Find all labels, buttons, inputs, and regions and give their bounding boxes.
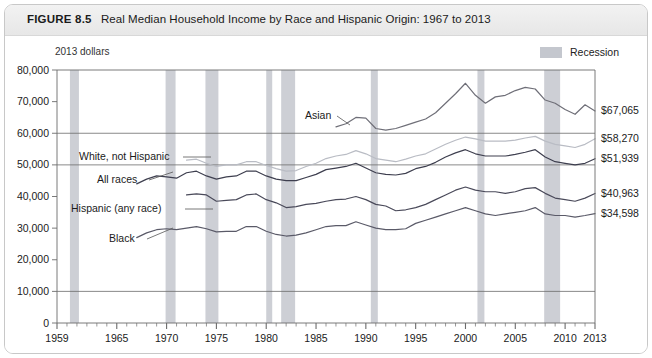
x-tick-label: 2000 [454, 332, 478, 344]
end-value-label-black: $34,598 [601, 207, 639, 219]
y-tick-label: 40,000 [17, 190, 49, 202]
y-tick-label: 20,000 [17, 253, 49, 265]
end-value-label-white-not-hispanic: $58,270 [601, 132, 639, 144]
y-tick-label: 80,000 [17, 64, 49, 76]
series-label-asian: Asian [305, 109, 331, 121]
series-label-black: Black [109, 232, 135, 244]
leader-line-asian [337, 116, 350, 125]
series-label-all-races: All races [97, 173, 137, 185]
chart-plot: 010,00020,00030,00040,00050,00060,00070,… [5, 36, 648, 354]
y-tick-label: 60,000 [17, 127, 49, 139]
x-tick-label: 1959 [45, 332, 69, 344]
y-tick-label: 30,000 [17, 222, 49, 234]
end-value-label-asian: $67,065 [601, 104, 639, 116]
x-tick-label: 1990 [354, 332, 378, 344]
recession-band [371, 70, 378, 323]
x-tick-label: 1970 [155, 332, 179, 344]
recession-band [166, 70, 176, 323]
figure-card: FIGURE 8.5 Real Median Household Income … [4, 4, 648, 354]
x-tick-label: 2005 [504, 332, 528, 344]
x-tick-label: 1985 [304, 332, 328, 344]
x-tick-label: 1975 [205, 332, 229, 344]
axes-group [57, 70, 595, 323]
recession-band [70, 70, 79, 323]
recession-bands-group [70, 70, 560, 323]
recession-band [266, 70, 272, 323]
y-tick-label: 10,000 [17, 285, 49, 297]
series-label-white-not-hispanic: White, not Hispanic [79, 150, 169, 162]
end-value-label-all-races: $51,939 [601, 152, 639, 164]
y-tick-label: 70,000 [17, 95, 49, 107]
recession-band [205, 70, 218, 323]
recession-band [477, 70, 484, 323]
series-label-hispanic-any-race: Hispanic (any race) [71, 202, 161, 214]
figure-header: FIGURE 8.5 Real Median Household Income … [5, 5, 647, 36]
y-tick-label: 50,000 [17, 158, 49, 170]
series-line-hispanic-any-race [187, 187, 595, 211]
series-line-white-not-hispanic [187, 136, 595, 171]
figure-number: FIGURE 8.5 [27, 13, 92, 25]
x-tick-label: 1965 [105, 332, 129, 344]
x-tick-label: 2010 [553, 332, 577, 344]
chart-area: 2013 dollars Recession 010,00020,00030,0… [5, 36, 648, 354]
x-tick-label: 1980 [255, 332, 279, 344]
value-labels-group: $67,065$58,270$51,939$40,963$34,598 [601, 104, 639, 219]
figure-title: Real Median Household Income by Race and… [101, 13, 491, 25]
x-tick-label: 2013 [583, 332, 607, 344]
x-tick-label: 1995 [404, 332, 428, 344]
end-value-label-hispanic-any-race: $40,963 [601, 187, 639, 199]
recession-band [281, 70, 295, 323]
y-tick-label: 0 [43, 317, 49, 329]
